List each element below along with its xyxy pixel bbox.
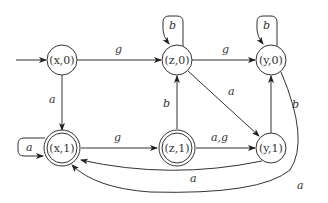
edge-label-x1-self: a xyxy=(26,141,33,154)
edge-label-z1-z0: b xyxy=(163,97,170,110)
edge-label-x0-x1: a xyxy=(49,93,56,106)
node-y1: (y,1) xyxy=(256,133,286,163)
state-diagram: g g b b a a g b a a,g b a a (x,0) (z,0) … xyxy=(0,0,328,203)
edge-label-y0-self: b xyxy=(263,19,270,32)
edge-label-x1-z1: g xyxy=(114,131,121,144)
svg-text:(z,1): (z,1) xyxy=(165,142,190,155)
edge-label-z0-y1: a xyxy=(228,85,235,98)
edge-label-z1-y1: a,g xyxy=(211,131,228,144)
node-y0: (y,0) xyxy=(256,45,286,75)
node-z1: (z,1) xyxy=(159,130,195,166)
svg-text:(x,1): (x,1) xyxy=(49,142,74,155)
svg-text:(x,0): (x,0) xyxy=(49,54,74,67)
svg-text:(z,0): (z,0) xyxy=(165,54,190,67)
svg-text:(y,1): (y,1) xyxy=(259,142,283,155)
node-z0: (z,0) xyxy=(162,45,192,75)
svg-text:(y,0): (y,0) xyxy=(259,54,283,67)
edge-label-z0-y0: g xyxy=(222,43,229,56)
node-x1: (x,1) xyxy=(44,130,80,166)
edge-label-z0-self: b xyxy=(169,19,176,32)
edge-label-x0-z0: g xyxy=(115,43,122,56)
edge-label-y1-x1: a xyxy=(190,172,197,185)
node-x0: (x,0) xyxy=(47,45,77,75)
edge-z0-y1 xyxy=(188,71,259,136)
edge-label-y0-x1: a xyxy=(297,179,304,192)
